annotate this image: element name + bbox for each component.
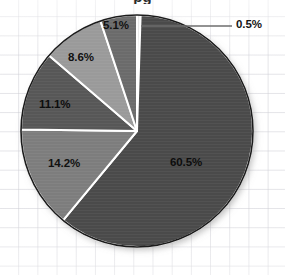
- slice-label-0-5: 0.5%: [236, 18, 262, 30]
- pie-chart: [0, 0, 285, 275]
- chart-canvas: pg 60.5% 14.2% 11.1% 8.6% 5.1% 0.5%: [0, 0, 285, 275]
- slice-label-11-1: 11.1%: [39, 98, 70, 110]
- slice-label-8-6: 8.6%: [68, 51, 94, 63]
- slice-label-14-2: 14.2%: [48, 157, 80, 169]
- pie-texture: [21, 15, 253, 247]
- slice-label-5-1: 5.1%: [103, 19, 129, 31]
- slice-label-60-5: 60.5%: [170, 156, 202, 168]
